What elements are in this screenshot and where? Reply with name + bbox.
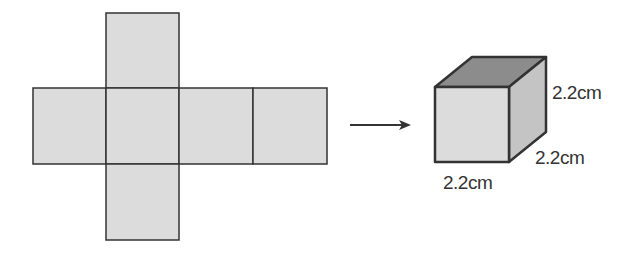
- depth-label: 2.2cm: [535, 147, 584, 169]
- diagram-canvas: [0, 0, 639, 253]
- width-label: 2.2cm: [443, 172, 492, 194]
- net-face-top: [106, 13, 179, 88]
- net-face-left: [33, 88, 106, 164]
- cube-front-face: [435, 87, 509, 162]
- net-face-center: [106, 88, 179, 164]
- cube-net: [33, 13, 327, 240]
- right-arrow-icon: [350, 120, 411, 130]
- height-label: 2.2cm: [552, 82, 601, 104]
- net-face-right: [179, 88, 253, 164]
- cube: [435, 57, 546, 162]
- net-face-bottom: [106, 164, 179, 240]
- net-face-far-right: [253, 88, 327, 164]
